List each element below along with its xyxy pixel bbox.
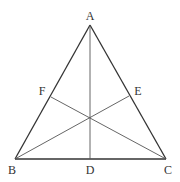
vertex-label-c: C: [164, 163, 172, 177]
vertex-label-a: A: [86, 9, 95, 23]
vertex-label-b: B: [8, 163, 16, 177]
point-label-e: E: [134, 84, 141, 98]
side-ab: [15, 25, 90, 159]
triangle-diagram: A B C D E F: [0, 0, 180, 182]
point-label-d: D: [86, 163, 95, 177]
point-label-f: F: [39, 84, 46, 98]
